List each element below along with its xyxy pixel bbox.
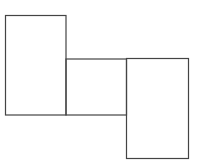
rectangle-middle <box>66 59 127 115</box>
rectangle-left <box>6 16 67 116</box>
rectangle-right <box>127 59 189 159</box>
diagram-canvas <box>0 0 200 168</box>
